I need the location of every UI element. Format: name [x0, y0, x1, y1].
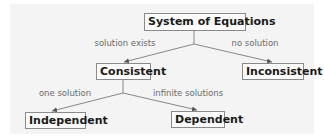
edge-label-infinite-solutions: infinite solutions [153, 88, 223, 98]
edge-label-solution-exists: solution exists [94, 38, 155, 48]
node-independent: Independent [25, 112, 86, 129]
node-system-of-equations: System of Equations [144, 13, 246, 31]
edge-label-one-solution: one solution [39, 88, 91, 98]
node-inconsistent: Inconsistent [242, 63, 304, 80]
node-consistent: Consistent [96, 63, 151, 80]
edge-label-no-solution: no solution [232, 38, 279, 48]
node-dependent: Dependent [171, 111, 225, 128]
